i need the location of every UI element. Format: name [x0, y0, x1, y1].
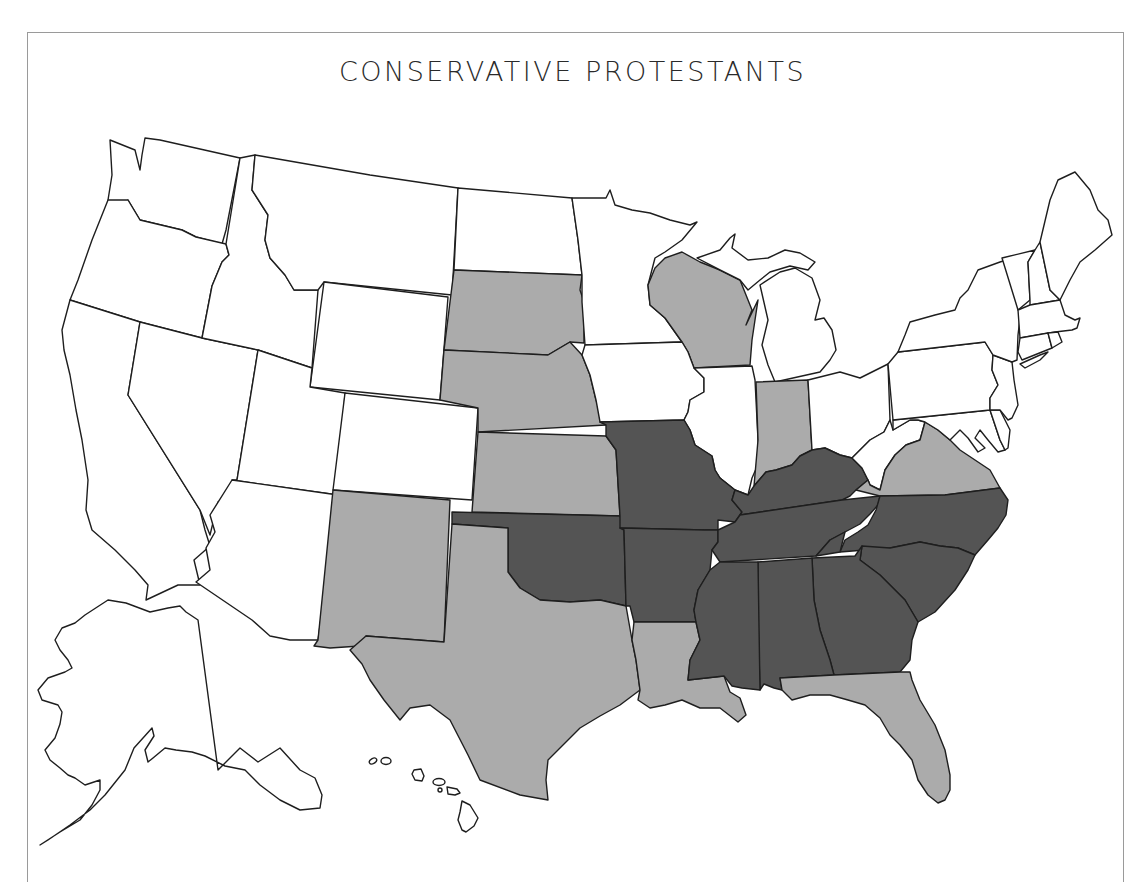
state-connecticut[interactable]: [1018, 333, 1052, 360]
state-pennsylvania[interactable]: [888, 342, 998, 420]
island-maui[interactable]: [447, 787, 460, 795]
island-lanai[interactable]: [438, 788, 442, 792]
state-north-dakota[interactable]: [454, 188, 582, 275]
state-colorado[interactable]: [333, 393, 478, 500]
island-kauai[interactable]: [381, 758, 391, 765]
island-molokai[interactable]: [433, 779, 445, 786]
state-new-mexico[interactable]: [314, 490, 450, 648]
island-hawaii[interactable]: [458, 801, 478, 832]
state-arizona[interactable]: [196, 480, 338, 640]
state-wyoming[interactable]: [310, 282, 448, 400]
state-michigan-lower[interactable]: [760, 268, 836, 382]
state-florida[interactable]: [780, 672, 950, 803]
state-kansas[interactable]: [472, 432, 620, 516]
island-oahu[interactable]: [412, 769, 424, 781]
island-niihau[interactable]: [368, 757, 377, 765]
state-iowa[interactable]: [582, 342, 704, 422]
state-maine[interactable]: [1040, 172, 1112, 300]
state-south-dakota[interactable]: [444, 270, 584, 355]
